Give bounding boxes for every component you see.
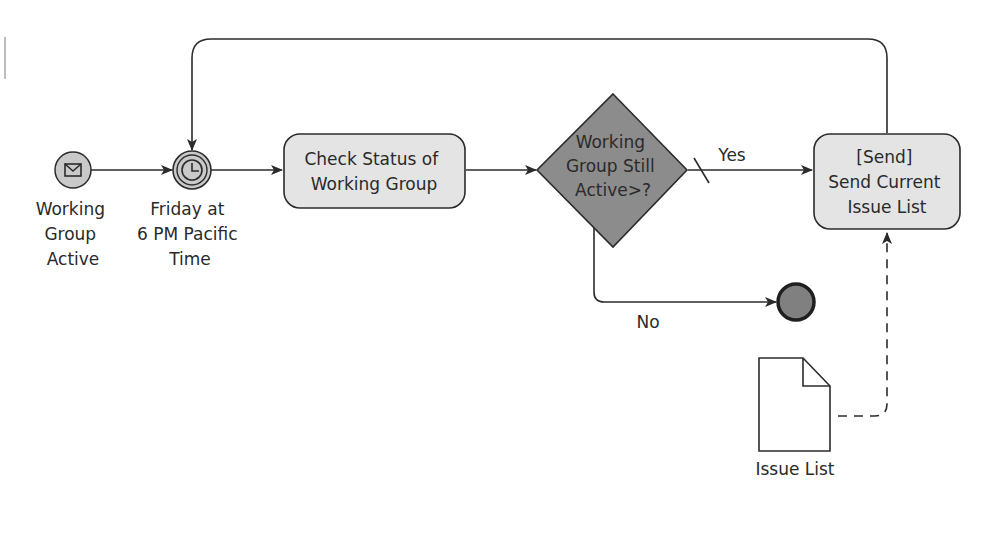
gateway-label: Working Group Still Active>? <box>566 132 660 200</box>
data-object-issue-list[interactable] <box>759 358 830 451</box>
data-object-label: Issue List <box>755 459 834 479</box>
start-event-label: Working Group Active <box>36 199 111 269</box>
loop-back-flow[interactable] <box>192 39 887 150</box>
timer-event-label: Friday at 6 PM Pacific Time <box>137 199 243 269</box>
message-start-event[interactable] <box>55 152 91 188</box>
data-association[interactable] <box>838 233 887 416</box>
bpmn-diagram: Yes No Working Group Active Friday at 6 … <box>0 0 985 535</box>
timer-event[interactable] <box>173 151 211 189</box>
task-check-status[interactable]: Check Status of Working Group <box>284 134 465 208</box>
clock-icon <box>182 160 202 180</box>
end-event[interactable] <box>778 284 814 320</box>
yes-label: Yes <box>717 145 746 165</box>
exclusive-gateway[interactable]: Working Group Still Active>? <box>537 94 687 247</box>
task-send-issue-list[interactable]: [Send] Send Current Issue List <box>814 134 960 229</box>
no-label: No <box>636 312 659 332</box>
document-icon <box>759 358 830 451</box>
